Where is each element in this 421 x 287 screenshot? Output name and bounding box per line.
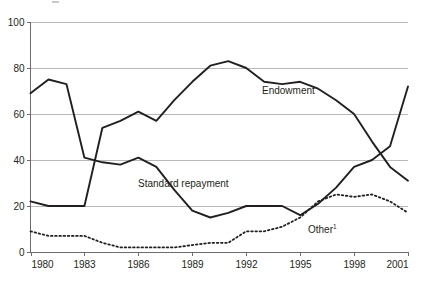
top-crop-artifact [52, 1, 59, 3]
x-tick-label-1983: 1983 [73, 259, 96, 270]
y-tick-label-80: 80 [13, 63, 25, 74]
x-tick-label-1998: 1998 [343, 259, 366, 270]
chart-background [0, 0, 421, 287]
y-tick-label-60: 60 [13, 109, 25, 120]
x-tick-label-1992: 1992 [235, 259, 258, 270]
chart-canvas: 020406080100 198019831986198919921995199… [0, 0, 421, 287]
x-tick-label-1980: 1980 [31, 259, 54, 270]
y-tick-label-40: 40 [13, 155, 25, 166]
x-tick-label-1995: 1995 [289, 259, 312, 270]
x-tick-label-1989: 1989 [181, 259, 204, 270]
y-tick-label-0: 0 [19, 247, 25, 258]
line-chart: 020406080100 198019831986198919921995199… [0, 0, 421, 287]
y-tick-label-100: 100 [8, 17, 25, 28]
y-tick-label-20: 20 [13, 201, 25, 212]
endowment-label: Endowment [262, 85, 315, 96]
x-tick-label-1986: 1986 [127, 259, 150, 270]
other-label: Other1 [308, 223, 337, 235]
x-tick-label-2001: 2001 [386, 259, 409, 270]
standard-repayment-label: Standard repayment [138, 178, 229, 189]
